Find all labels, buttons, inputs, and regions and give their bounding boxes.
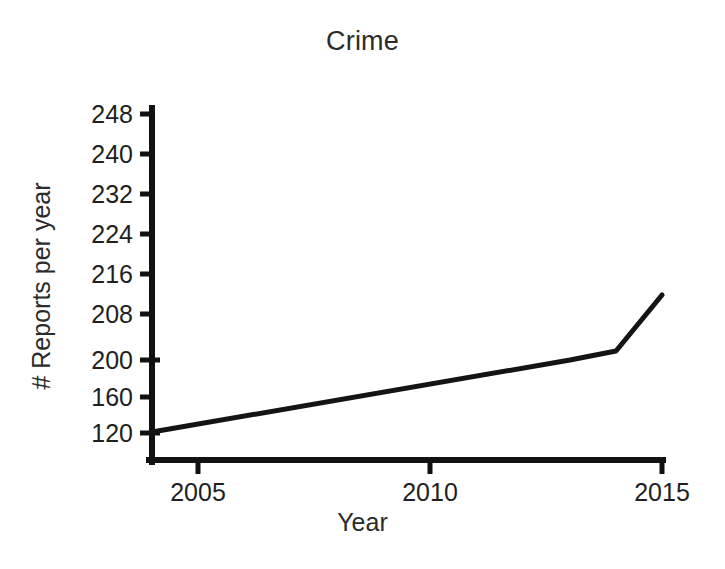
chart-container: Crime # Reports per year Year bbox=[0, 0, 725, 569]
x-tick-label: 2005 bbox=[138, 478, 258, 507]
y-tick-label: 232 bbox=[55, 180, 133, 209]
y-tick-label: 216 bbox=[55, 260, 133, 289]
y-tick-label: 240 bbox=[55, 140, 133, 169]
y-tick-label: 160 bbox=[55, 383, 133, 412]
data-series-line bbox=[152, 295, 662, 432]
y-tick-label: 248 bbox=[55, 100, 133, 129]
y-tick-label: 224 bbox=[55, 220, 133, 249]
x-tick-label: 2015 bbox=[602, 478, 722, 507]
x-tick-label: 2010 bbox=[370, 478, 490, 507]
y-tick-label: 208 bbox=[55, 300, 133, 329]
y-tick-label: 120 bbox=[55, 419, 133, 448]
y-tick-label: 200 bbox=[55, 346, 133, 375]
